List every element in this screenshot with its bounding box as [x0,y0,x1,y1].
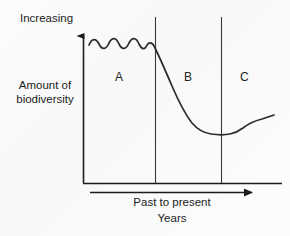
region-label-c: C [240,70,249,84]
y-axis-label-line1: Amount of [12,79,78,93]
y-axis-label: Amount of biodiversity [12,79,78,106]
increasing-label: Increasing [20,12,73,26]
biodiversity-figure: Increasing Amount of biodiversity A B C … [0,0,290,236]
x-axis-direction-label: Past to present [83,196,261,210]
biodiversity-curve [89,39,274,135]
x-axis-units-label: Years [83,212,261,226]
region-label-a: A [115,70,123,84]
y-axis-label-line2: biodiversity [12,93,78,107]
region-label-b: B [184,70,192,84]
